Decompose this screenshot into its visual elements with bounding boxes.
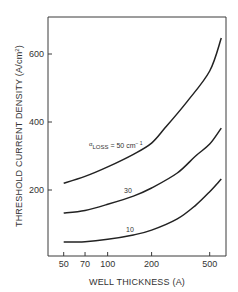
threshold-current-chart: 5070100200500 200400600 WELL THICKNESS (… <box>0 0 238 292</box>
x-tick-label: 200 <box>144 259 159 269</box>
y-tick-label: 400 <box>29 117 44 127</box>
curve-label-50: αLOSS = 50 cm− 1 <box>89 140 143 150</box>
y-axis-title: THRESHOLD CURRENT DENSITY (A/cm2) <box>14 45 24 227</box>
y-tick-label: 600 <box>29 49 44 59</box>
x-ticks: 5070100200500 <box>59 252 218 269</box>
plot-frame <box>48 17 226 256</box>
loss-value: = 50 cm <box>108 142 135 149</box>
x-tick-label: 100 <box>100 259 115 269</box>
y-tick-label: 200 <box>29 185 44 195</box>
y-axis-title-close: ) <box>14 45 24 48</box>
x-tick-label: 500 <box>202 259 217 269</box>
curve-alpha-50 <box>64 38 222 183</box>
curve-label-10: 10 <box>126 226 134 233</box>
x-tick-label: 50 <box>59 259 69 269</box>
loss-subscript: LOSS <box>92 144 108 150</box>
x-axis-title: WELL THICKNESS (A) <box>89 277 185 287</box>
y-ticks: 200400600 <box>29 49 52 195</box>
x-tick-label: 70 <box>80 259 90 269</box>
curve-label-30: 30 <box>124 187 132 194</box>
loss-unit-exponent: − 1 <box>136 140 143 146</box>
y-axis-title-main: THRESHOLD CURRENT DENSITY (A/cm <box>14 52 24 227</box>
